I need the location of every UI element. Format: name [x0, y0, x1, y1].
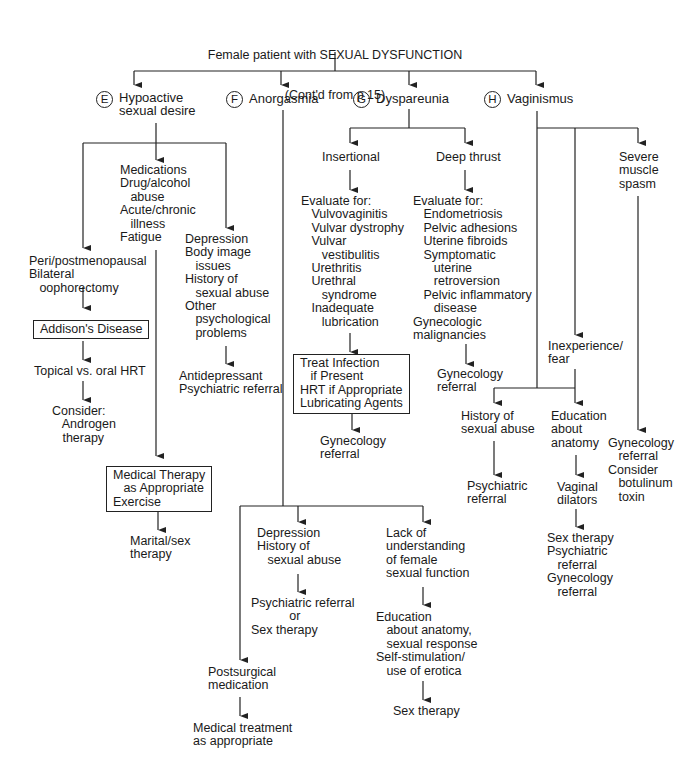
- branch-e-label: Hypoactive sexual desire: [119, 91, 196, 118]
- deep-thrust-gynecology-referral: Gynecology referral: [437, 368, 503, 395]
- insertional-gynecology-referral: Gynecology referral: [320, 435, 386, 462]
- treat-infection-box: Treat Infection if Present HRT if Approp…: [293, 354, 410, 414]
- consider-androgen: Consider: Androgen therapy: [52, 405, 116, 445]
- hypoactive-menopausal-causes: Peri/postmenopausal Bilateral oophorecto…: [29, 255, 146, 295]
- branch-anorgasmia: FAnorgasmia: [226, 91, 318, 108]
- branch-dyspareunia: GDyspareunia: [353, 91, 449, 108]
- branch-f-label: Anorgasmia: [249, 91, 318, 106]
- anorgasmia-sex-therapy: Sex therapy: [393, 705, 460, 718]
- letter-h-icon: H: [484, 91, 501, 108]
- education-about-anatomy: Education about anatomy: [551, 410, 607, 450]
- severe-muscle-spasm: Severe muscle spasm: [619, 151, 659, 191]
- deep-thrust: Deep thrust: [436, 151, 501, 164]
- chart-title: Female patient with SEXUAL DYSFUNCTION (…: [200, 22, 470, 129]
- insertional-evaluate: Evaluate for: Vulvovaginitis Vulvar dyst…: [301, 195, 404, 329]
- flowchart-canvas: Female patient with SEXUAL DYSFUNCTION (…: [0, 0, 696, 776]
- addisons-disease-box: Addison's Disease: [33, 320, 149, 339]
- deep-thrust-evaluate: Evaluate for: Endometriosis Pelvic adhes…: [413, 195, 532, 342]
- medical-treatment: Medical treatment as appropriate: [193, 722, 292, 749]
- branch-vaginismus: HVaginismus: [484, 91, 573, 108]
- hypoactive-psych-causes: Depression Body image issues History of …: [185, 233, 270, 340]
- medical-therapy-box: Medical Therapy as Appropriate Exercise: [106, 466, 212, 512]
- combined-referral: Sex therapy Psychiatric referral Gynecol…: [547, 532, 614, 599]
- vaginismus-psychiatric-referral: Psychiatric referral: [467, 480, 527, 507]
- anorgasmia-depression: Depression History of sexual abuse: [257, 527, 341, 567]
- letter-e-icon: E: [96, 91, 113, 108]
- postsurgical-medication: Postsurgical medication: [208, 666, 276, 693]
- education-self-stimulation: Education about anatomy, sexual response…: [376, 611, 477, 678]
- insertional: Insertional: [322, 151, 380, 164]
- title-line1: Female patient with SEXUAL DYSFUNCTION: [200, 49, 470, 62]
- hrt-option: Topical vs. oral HRT: [34, 365, 146, 378]
- anorgasmia-depression-treatment: Psychiatric referral or Sex therapy: [251, 597, 355, 637]
- vaginal-dilators: Vaginal dilators: [557, 481, 598, 508]
- letter-g-icon: G: [353, 91, 370, 108]
- psych-treatment: Antidepressant Psychiatric referral: [179, 370, 283, 397]
- branch-hypoactive-desire: EHypoactive sexual desire: [96, 91, 196, 118]
- branch-h-label: Vaginismus: [507, 91, 573, 106]
- letter-f-icon: F: [226, 91, 243, 108]
- history-sexual-abuse: History of sexual abuse: [461, 410, 535, 437]
- branch-g-label: Dyspareunia: [376, 91, 449, 106]
- inexperience-fear: Inexperience/ fear: [548, 340, 623, 367]
- lack-of-understanding: Lack of understanding of female sexual f…: [386, 527, 469, 581]
- spasm-treatment: Gynecology referral Consider botulinum t…: [608, 437, 674, 504]
- marital-sex-therapy: Marital/sex therapy: [130, 535, 190, 562]
